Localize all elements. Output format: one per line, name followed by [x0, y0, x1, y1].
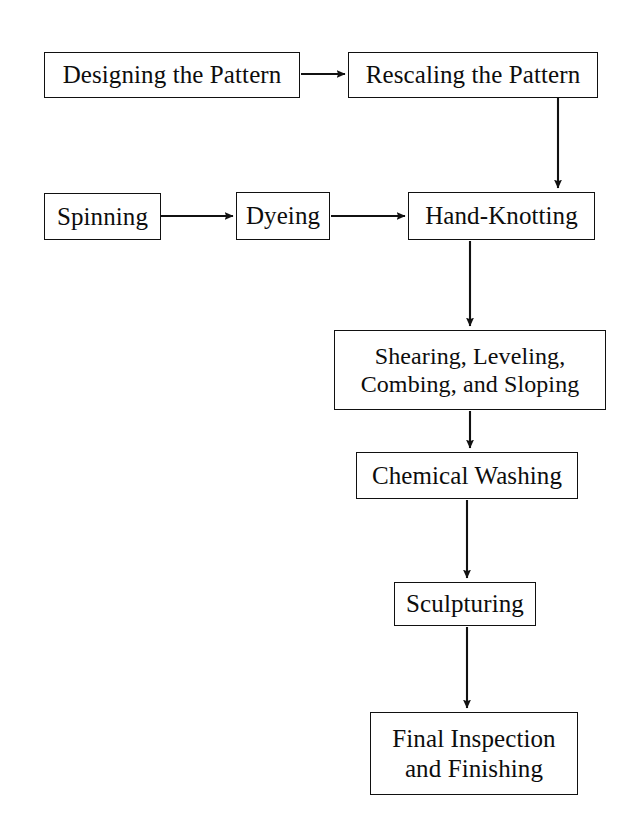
node-final-inspection-and-finishing: Final Inspection and Finishing: [370, 712, 578, 795]
flowchart-edges: [0, 0, 626, 828]
node-hand-knotting: Hand-Knotting: [408, 192, 595, 240]
flowchart-canvas: Designing the Pattern Rescaling the Patt…: [0, 0, 626, 828]
node-rescaling-the-pattern: Rescaling the Pattern: [348, 52, 598, 98]
node-shearing-leveling-combing-sloping: Shearing, Leveling, Combing, and Sloping: [334, 330, 606, 410]
node-spinning: Spinning: [44, 193, 161, 240]
node-designing-the-pattern: Designing the Pattern: [44, 52, 300, 98]
node-dyeing: Dyeing: [236, 192, 330, 240]
node-chemical-washing: Chemical Washing: [356, 452, 578, 499]
node-sculpturing: Sculpturing: [394, 582, 536, 626]
